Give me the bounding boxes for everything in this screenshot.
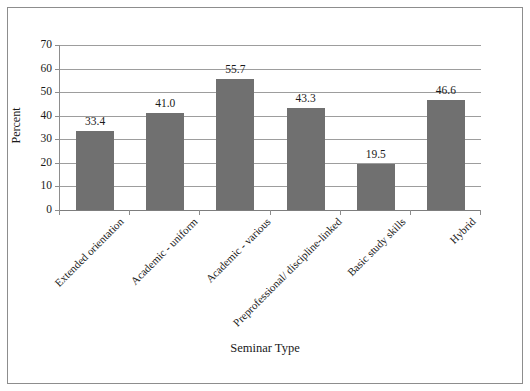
bar-value-label: 33.4 <box>85 116 105 128</box>
bar-value-label: 41.0 <box>155 98 175 110</box>
plot-area: 010203040506070 33.441.055.743.319.546.6 <box>59 45 480 210</box>
y-tick-label: 0 <box>46 204 52 216</box>
y-axis-title: Percent <box>9 96 24 156</box>
y-tick-label: 20 <box>41 157 53 169</box>
y-tick-label: 60 <box>41 63 53 75</box>
y-tick-label: 50 <box>41 86 53 98</box>
bar[interactable] <box>76 131 114 210</box>
figure-container: Percent 010203040506070 33.441.055.743.3… <box>0 0 530 391</box>
bars-group <box>60 45 481 210</box>
x-axis-title: Seminar Type <box>0 341 530 356</box>
y-tick-label: 40 <box>41 110 53 122</box>
x-tick-mark <box>59 210 60 215</box>
y-tick-label: 10 <box>41 181 53 193</box>
y-tick-label: 70 <box>41 39 53 51</box>
bar-value-label: 55.7 <box>225 63 245 75</box>
bar-value-label: 46.6 <box>436 85 456 97</box>
y-tick-label: 30 <box>41 134 53 146</box>
bar-value-label: 43.3 <box>296 92 316 104</box>
bar-value-label: 19.5 <box>366 149 386 161</box>
